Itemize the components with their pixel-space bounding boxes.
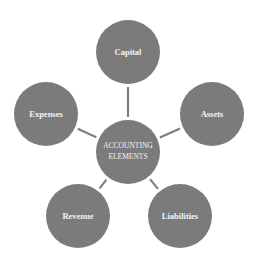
connector-assets: [160, 128, 180, 137]
node-expenses-label: Expenses: [29, 109, 63, 119]
node-capital: Capital: [96, 20, 160, 84]
node-liabilities: Liabilities: [148, 184, 212, 248]
connector-revenue: [100, 180, 107, 189]
center-label-line-1: ACCOUNTING: [103, 141, 153, 150]
accounting-elements-diagram: CapitalAssetsLiabilitiesRevenueExpenses …: [0, 0, 256, 264]
node-assets: Assets: [180, 82, 244, 146]
node-revenue: Revenue: [46, 184, 110, 248]
connector-liabilities: [150, 179, 158, 189]
center-node: ACCOUNTING ELEMENTS: [96, 120, 160, 184]
connector-expenses: [78, 129, 96, 138]
node-capital-label: Capital: [115, 47, 143, 57]
node-revenue-label: Revenue: [62, 211, 93, 221]
node-expenses: Expenses: [14, 82, 78, 146]
center-label-line-2: ELEMENTS: [108, 152, 147, 161]
node-assets-label: Assets: [201, 109, 224, 119]
node-liabilities-label: Liabilities: [162, 211, 199, 221]
